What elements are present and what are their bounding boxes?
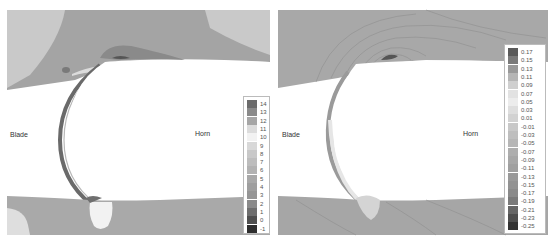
legend-value: 0.01 xyxy=(521,114,533,122)
legend-value: -0.03 xyxy=(521,131,535,139)
legend-swatch xyxy=(508,56,518,64)
legend-entry: -0.21 xyxy=(505,206,545,214)
legend-entry: -0.13 xyxy=(505,173,545,181)
legend-value: -0.11 xyxy=(521,164,534,172)
legend-swatch xyxy=(508,98,518,106)
legend-entry: 0.11 xyxy=(505,73,545,81)
legend-value: -0.23 xyxy=(521,214,535,222)
legend-value: 9 xyxy=(260,142,263,150)
legend-swatch xyxy=(508,139,518,147)
legend-entry: -0.05 xyxy=(505,139,545,147)
legend-swatch xyxy=(508,206,518,214)
legend-entry: 9 xyxy=(244,142,269,150)
legend-entry: 14 xyxy=(244,100,269,108)
legend-entry: -0.19 xyxy=(505,197,545,205)
legend-value: 5 xyxy=(260,175,263,183)
legend-value: 3 xyxy=(260,191,263,199)
legend-swatch xyxy=(247,200,257,208)
legend-swatch xyxy=(508,173,518,181)
legend-swatch xyxy=(247,166,257,174)
legend-value: 2 xyxy=(260,200,263,208)
legend-entry: 0.13 xyxy=(505,65,545,73)
legend-swatch xyxy=(508,106,518,114)
legend-value: -0.15 xyxy=(521,181,535,189)
legend-value: 0.07 xyxy=(521,90,533,98)
legend-entry: 0.07 xyxy=(505,90,545,98)
legend-value: 1 xyxy=(260,208,263,216)
legend-value: 0.05 xyxy=(521,98,533,106)
right-contour-panel: Blade Horn 0.170.150.130.110.090.070.050… xyxy=(276,0,548,241)
legend-value: -0.09 xyxy=(521,156,535,164)
legend-value: 12 xyxy=(260,117,267,125)
legend-swatch xyxy=(247,133,257,141)
legend-swatch xyxy=(508,65,518,73)
legend-swatch xyxy=(247,108,257,116)
legend-value: 13 xyxy=(260,108,267,116)
legend-entry: -0.09 xyxy=(505,156,545,164)
legend-entry: -1 xyxy=(244,225,269,233)
legend-swatch xyxy=(247,142,257,150)
legend-entry: 6 xyxy=(244,166,269,174)
horn-label: Horn xyxy=(195,130,210,137)
legend-swatch xyxy=(247,117,257,125)
legend-value: 0 xyxy=(260,216,263,224)
legend-swatch xyxy=(247,125,257,133)
legend-value: -0.17 xyxy=(521,189,535,197)
legend-swatch xyxy=(247,225,257,233)
legend-entry: -0.03 xyxy=(505,131,545,139)
legend-entry: 12 xyxy=(244,117,269,125)
legend-entry: 4 xyxy=(244,183,269,191)
legend-entry: 11 xyxy=(244,125,269,133)
legend-entry: 5 xyxy=(244,175,269,183)
left-contour-plot xyxy=(0,0,270,241)
legend-entry: 8 xyxy=(244,150,269,158)
legend-value: -0.01 xyxy=(521,123,535,131)
horn-label: Horn xyxy=(463,130,478,137)
legend-swatch xyxy=(247,183,257,191)
legend-entry: 3 xyxy=(244,191,269,199)
legend-swatch xyxy=(247,175,257,183)
legend-swatch xyxy=(247,150,257,158)
legend-swatch xyxy=(508,123,518,131)
legend-entry: 13 xyxy=(244,108,269,116)
legend-swatch xyxy=(508,222,518,230)
legend-value: 4 xyxy=(260,183,263,191)
legend-swatch xyxy=(508,189,518,197)
legend-entry: -0.23 xyxy=(505,214,545,222)
legend-entry: -0.07 xyxy=(505,148,545,156)
legend-value: 10 xyxy=(260,133,267,141)
legend-value: 0.11 xyxy=(521,73,532,81)
legend-entry: -0.25 xyxy=(505,222,545,230)
legend-value: 0.03 xyxy=(521,106,533,114)
legend-swatch xyxy=(247,191,257,199)
legend-value: -0.07 xyxy=(521,148,535,156)
legend-entry: 0.17 xyxy=(505,48,545,56)
legend-entry: 10 xyxy=(244,133,269,141)
legend-entry: 0.01 xyxy=(505,114,545,122)
blade-label: Blade xyxy=(10,131,28,138)
legend-swatch xyxy=(508,114,518,122)
legend-swatch xyxy=(247,208,257,216)
legend-swatch xyxy=(247,100,257,108)
legend-entry: -0.15 xyxy=(505,181,545,189)
legend-value: -0.05 xyxy=(521,139,535,147)
legend-swatch xyxy=(508,197,518,205)
legend-entry: 0.05 xyxy=(505,98,545,106)
legend-value: 11 xyxy=(260,125,266,133)
legend-entry: 2 xyxy=(244,200,269,208)
legend-swatch xyxy=(247,216,257,224)
legend-entry: 0.15 xyxy=(505,56,545,64)
legend-value: -0.13 xyxy=(521,173,535,181)
legend-value: -1 xyxy=(260,225,265,233)
legend-swatch xyxy=(508,73,518,81)
legend-entry: -0.11 xyxy=(505,164,545,172)
legend-value: 0.17 xyxy=(521,48,533,56)
legend-swatch xyxy=(508,164,518,172)
legend-value: -0.25 xyxy=(521,222,535,230)
legend-entry: 1 xyxy=(244,208,269,216)
legend-value: 14 xyxy=(260,100,267,108)
legend-entry: 0.09 xyxy=(505,81,545,89)
legend-entry: -0.01 xyxy=(505,123,545,131)
legend-value: 0.09 xyxy=(521,81,533,89)
legend-swatch xyxy=(508,148,518,156)
